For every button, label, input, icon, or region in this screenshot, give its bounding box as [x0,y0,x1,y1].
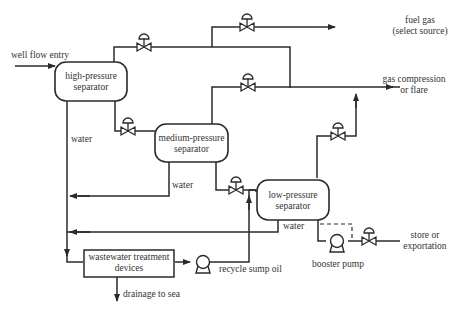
lp-separator-line1: low-pressure [257,190,329,201]
booster-pump-label: booster pump [312,259,364,270]
mp-separator-label: medium-pressure separator [151,133,232,155]
wastewater-line2: devices [84,263,174,274]
mp-separator-line1: medium-pressure [151,133,232,144]
lp-water-label: water [283,221,304,232]
control-valve-icon [121,118,135,135]
control-valve-icon [241,74,255,91]
fuel-gas-line2: (select source) [380,26,456,37]
store-line2: exportation [395,241,455,252]
hp-separator-line2: separator [55,82,127,93]
gas-compression-line1: gas compression [374,74,454,85]
hp-separator-label: high-pressure separator [55,71,127,93]
gas-compression-line2: or flare [374,85,454,96]
booster-pump-icon [330,235,344,253]
control-valve-icon [362,228,376,245]
recycle-pump-icon [196,256,210,274]
recycle-label: recycle sump oil [219,264,282,275]
fuel-gas-label: fuel gas (select source) [380,15,456,37]
wastewater-label: wastewater treatment devices [84,252,174,274]
store-label: store or exportation [395,230,455,252]
drainage-label: drainage to sea [123,289,180,300]
control-valve-icon [331,123,345,140]
lp-separator-label: low-pressure separator [257,190,329,212]
control-valve-icon [229,177,243,194]
lp-separator-line2: separator [257,201,329,212]
well-flow-entry-label: well flow entry [11,50,69,61]
wastewater-line1: wastewater treatment [84,252,174,263]
control-valve-icon [137,34,151,51]
fuel-gas-line1: fuel gas [380,15,456,26]
hp-separator-line1: high-pressure [55,71,127,82]
mp-separator-line2: separator [151,144,232,155]
store-line1: store or [395,230,455,241]
control-valve-icon [240,14,254,31]
mp-water-label: water [172,180,193,191]
gas-compression-label: gas compression or flare [374,74,454,96]
hp-water-label: water [71,134,92,145]
